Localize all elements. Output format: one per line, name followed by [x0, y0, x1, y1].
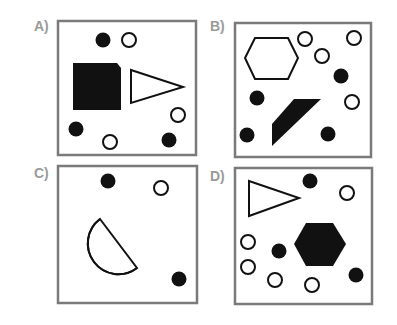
panel-c[interactable] — [58, 166, 197, 303]
panel-d[interactable] — [235, 168, 372, 304]
panel-a[interactable] — [58, 21, 196, 155]
panel-b[interactable] — [235, 23, 371, 157]
figure-panels — [0, 0, 397, 325]
